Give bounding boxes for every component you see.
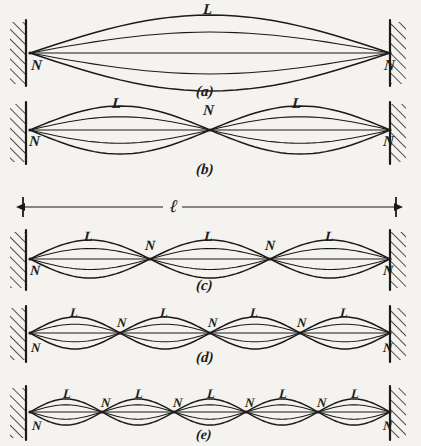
node-point <box>28 331 31 334</box>
node-label-d-0: N <box>31 341 41 354</box>
length-label: ℓ <box>169 197 178 215</box>
node-point <box>28 257 31 260</box>
node-label-b-0: N <box>28 134 40 149</box>
wall-hatching <box>390 22 406 84</box>
loop-label-e-3: L <box>279 387 288 400</box>
node-label-c-1: N <box>145 239 156 253</box>
wall-hatching <box>390 232 406 288</box>
standing-waves-diagram <box>0 0 421 446</box>
node-point <box>118 331 121 334</box>
node-label-e-1: N <box>101 396 111 409</box>
wave-curve <box>300 333 390 349</box>
wall-hatching <box>10 104 26 162</box>
node-label-e-2: N <box>173 396 183 409</box>
node-point <box>316 410 319 413</box>
panel-caption-a: (a) <box>195 84 214 99</box>
wall-right <box>390 20 406 86</box>
node-label-a-1: N <box>383 58 395 73</box>
loop-label-c-2: L <box>325 230 335 244</box>
wall-left <box>10 102 26 164</box>
panel-caption-b: (b) <box>195 162 214 177</box>
node-label-d-4: N <box>383 341 393 354</box>
node-label-b-1: N <box>202 103 214 118</box>
node-label-d-1: N <box>117 316 127 329</box>
panel-c-waves <box>28 240 391 278</box>
wall-left <box>10 386 26 440</box>
wave-curve <box>30 15 390 53</box>
loop-label-c-1: L <box>204 230 214 244</box>
wall-right <box>390 230 406 290</box>
node-point <box>388 51 391 54</box>
node-label-e-4: N <box>317 396 327 409</box>
wave-curve <box>120 333 210 349</box>
node-label-e-3: N <box>245 396 255 409</box>
node-label-a-0: N <box>30 58 42 73</box>
loop-label-b-1: L <box>291 96 301 111</box>
panel-caption-c: (c) <box>195 278 213 293</box>
loop-label-d-2: L <box>250 306 259 319</box>
panel-e-waves <box>28 399 391 425</box>
wall-hatching <box>10 22 26 84</box>
node-point <box>208 128 211 131</box>
loop-label-e-4: L <box>351 387 360 400</box>
node-label-d-3: N <box>297 316 307 329</box>
node-label-c-0: N <box>30 264 41 278</box>
node-point <box>388 331 391 334</box>
node-label-d-2: N <box>208 316 218 329</box>
wall-left <box>10 20 26 86</box>
panel-caption-d: (d) <box>195 350 214 365</box>
wave-curve <box>210 333 300 349</box>
node-point <box>28 128 31 131</box>
wall-right <box>390 386 406 440</box>
wall-right <box>390 306 406 362</box>
loop-label-e-2: L <box>207 387 216 400</box>
wave-curve <box>210 130 390 154</box>
node-point <box>388 257 391 260</box>
node-point <box>28 51 31 54</box>
loop-label-d-1: L <box>160 306 169 319</box>
wall-left <box>10 230 26 290</box>
length-dimension-line <box>23 197 396 217</box>
wave-curve <box>30 259 150 278</box>
wave-curve <box>102 412 174 425</box>
loop-label-e-0: L <box>63 387 72 400</box>
node-point <box>100 410 103 413</box>
loop-label-a-0: L <box>202 2 212 17</box>
node-point <box>388 128 391 131</box>
node-label-e-5: N <box>383 419 393 432</box>
wall-hatching <box>390 388 406 438</box>
node-point <box>244 410 247 413</box>
loop-label-d-0: L <box>70 306 79 319</box>
node-point <box>172 410 175 413</box>
wave-curve <box>150 259 270 278</box>
node-point <box>208 331 211 334</box>
wave-curve <box>318 412 390 425</box>
panel-a-waves <box>28 15 391 91</box>
node-label-c-2: N <box>265 239 276 253</box>
wall-hatching <box>390 308 406 360</box>
wave-curve <box>30 130 210 154</box>
wave-curve <box>174 412 246 425</box>
wave-curve <box>270 259 390 278</box>
wall-hatching <box>10 308 26 360</box>
wave-curve <box>30 333 120 349</box>
loop-label-b-0: L <box>111 96 121 111</box>
node-point <box>388 410 391 413</box>
loop-label-d-3: L <box>340 306 349 319</box>
node-label-b-2: N <box>382 134 394 149</box>
node-label-e-0: N <box>32 419 42 432</box>
wall-hatching <box>10 388 26 438</box>
node-point <box>28 410 31 413</box>
wave-curve <box>246 412 318 425</box>
node-point <box>298 331 301 334</box>
wall-left <box>10 306 26 362</box>
panel-caption-e: (e) <box>196 428 213 442</box>
loop-label-c-0: L <box>84 230 94 244</box>
node-label-c-3: N <box>383 264 394 278</box>
node-point <box>268 257 271 260</box>
wall-hatching <box>10 232 26 288</box>
node-point <box>148 257 151 260</box>
figure-standing-waves: ℓNNL(a)NNNLL(b)NNNNLLL(c)NNNNNLLLL(d)NNN… <box>0 0 421 446</box>
dimension-line-length <box>23 197 396 217</box>
loop-label-e-1: L <box>135 387 144 400</box>
